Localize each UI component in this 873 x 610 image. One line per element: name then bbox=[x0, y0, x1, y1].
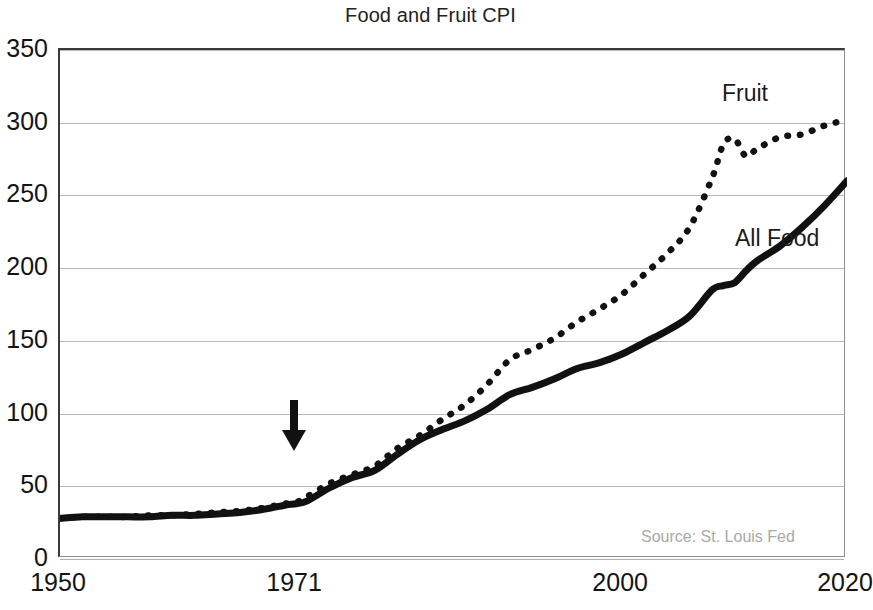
x-tick-label-1950: 1950 bbox=[30, 568, 86, 597]
series-label-all-food: All Food bbox=[735, 225, 819, 252]
source-note: Source: St. Louis Fed bbox=[641, 528, 795, 546]
x-tick-label-2020: 2020 bbox=[817, 568, 873, 597]
x-tick-label-2000: 2000 bbox=[592, 568, 648, 597]
arrow-annotation-1971 bbox=[281, 400, 307, 452]
series-label-fruit: Fruit bbox=[722, 80, 768, 107]
x-tick-label-1971: 1971 bbox=[266, 568, 322, 597]
